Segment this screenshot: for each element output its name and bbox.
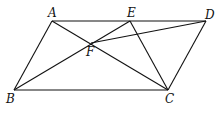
segment-DC — [168, 21, 206, 90]
label-C: C — [165, 92, 174, 106]
label-B: B — [5, 92, 15, 106]
label-D: D — [204, 8, 215, 22]
segment-BE — [14, 21, 130, 90]
label-A: A — [47, 6, 57, 20]
label-E: E — [126, 6, 136, 20]
segment-AB — [14, 21, 52, 90]
segment-FD — [91, 21, 206, 43]
label-F: F — [85, 45, 95, 59]
geometry-diagram: A E D F B C — [0, 0, 221, 118]
